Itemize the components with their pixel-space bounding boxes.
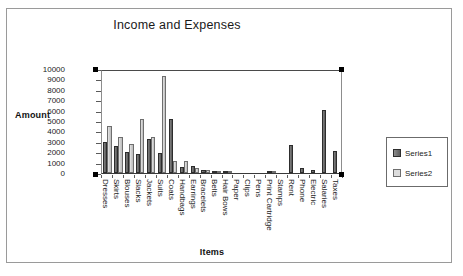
- x-axis-category-labels: DressesSkirtsBlousesSlacksJacketsSuitsCo…: [101, 179, 342, 245]
- bar-series1[interactable]: [212, 171, 216, 173]
- bar-group[interactable]: [212, 71, 223, 173]
- chart-object-frame[interactable]: Income and Expenses Amount 1000090008000…: [6, 8, 452, 263]
- bar-group[interactable]: [244, 71, 255, 173]
- bar-group[interactable]: [168, 71, 179, 173]
- bar-series2[interactable]: [107, 126, 111, 173]
- chart-title: Income and Expenses: [7, 18, 347, 32]
- bar-series1[interactable]: [322, 110, 326, 173]
- bar-series2[interactable]: [151, 137, 155, 173]
- x-category-label: Blouses: [123, 179, 131, 207]
- selection-handle[interactable]: [93, 67, 98, 72]
- x-tick-mark: [298, 175, 299, 178]
- bar-group[interactable]: [102, 71, 113, 173]
- bar-series1[interactable]: [201, 170, 205, 173]
- bar-group[interactable]: [201, 71, 212, 173]
- legend-swatch-icon: [393, 169, 401, 177]
- x-tick-mark: [287, 175, 288, 178]
- x-tick-mark: [331, 175, 332, 178]
- bar-series2[interactable]: [206, 170, 210, 173]
- x-category-label: Handbags: [178, 179, 186, 215]
- bar-group[interactable]: [288, 71, 299, 173]
- bar-series1[interactable]: [289, 145, 293, 173]
- bar-series1[interactable]: [191, 166, 195, 173]
- bar-series1[interactable]: [103, 142, 107, 173]
- bar-series1[interactable]: [158, 153, 162, 173]
- bar-series2[interactable]: [217, 171, 221, 173]
- x-tick-mark: [232, 175, 233, 178]
- selection-handle[interactable]: [93, 172, 98, 177]
- bar-group[interactable]: [321, 71, 332, 173]
- x-tick-mark: [254, 175, 255, 178]
- legend-label: Series2: [405, 169, 432, 178]
- x-tick-mark: [189, 175, 190, 178]
- bar-group[interactable]: [310, 71, 321, 173]
- bar-group[interactable]: [233, 71, 244, 173]
- bar-series2[interactable]: [195, 168, 199, 173]
- plot-inner-region: [101, 70, 342, 174]
- bar-group[interactable]: [135, 71, 146, 173]
- x-category-label: Jackets: [145, 179, 153, 206]
- x-axis-title: Items: [87, 247, 337, 257]
- bar-group[interactable]: [190, 71, 201, 173]
- x-tick-mark: [320, 175, 321, 178]
- x-category-label: Suits: [156, 179, 164, 197]
- bar-series1[interactable]: [147, 139, 151, 173]
- selection-handle[interactable]: [339, 67, 344, 72]
- x-category-label: Pens: [254, 179, 262, 197]
- y-tick-label: 2000: [33, 149, 65, 157]
- bar-series1[interactable]: [300, 168, 304, 173]
- y-tick-label: 7000: [33, 97, 65, 105]
- bar-series1[interactable]: [136, 154, 140, 173]
- x-category-label: Salaries: [320, 179, 328, 208]
- x-tick-mark: [145, 175, 146, 178]
- chart-legend[interactable]: Series1Series2: [386, 137, 448, 187]
- bar-series2[interactable]: [173, 161, 177, 173]
- bar-series2[interactable]: [272, 171, 276, 173]
- legend-item[interactable]: Series2: [393, 167, 432, 179]
- bar-group[interactable]: [146, 71, 157, 173]
- x-tick-mark: [265, 175, 266, 178]
- x-category-label: Taxes: [331, 179, 339, 200]
- bar-series2[interactable]: [129, 144, 133, 173]
- x-category-label: Earrings: [189, 179, 197, 209]
- selection-handle[interactable]: [339, 172, 344, 177]
- bar-group[interactable]: [266, 71, 277, 173]
- bar-series2[interactable]: [184, 161, 188, 173]
- x-tick-mark: [222, 175, 223, 178]
- bar-series2[interactable]: [228, 171, 232, 173]
- x-tick-mark: [243, 175, 244, 178]
- y-tick-label: 0: [33, 170, 65, 178]
- x-tick-mark: [200, 175, 201, 178]
- bar-group[interactable]: [179, 71, 190, 173]
- bar-series1[interactable]: [267, 171, 271, 173]
- bar-series1[interactable]: [311, 170, 315, 173]
- bar-series1[interactable]: [180, 167, 184, 173]
- legend-item[interactable]: Series1: [393, 147, 432, 159]
- y-tick-label: 8000: [33, 87, 65, 95]
- bar-group[interactable]: [332, 71, 343, 173]
- bar-group[interactable]: [124, 71, 135, 173]
- x-category-label: Stamps: [276, 179, 284, 206]
- y-tick-label: 4000: [33, 128, 65, 136]
- bar-series2[interactable]: [140, 119, 144, 173]
- bar-series1[interactable]: [114, 146, 118, 173]
- bar-group[interactable]: [113, 71, 124, 173]
- bar-series1[interactable]: [125, 152, 129, 173]
- x-category-label: Phone: [298, 179, 306, 202]
- bar-group[interactable]: [157, 71, 168, 173]
- x-category-label: Paper: [232, 179, 240, 200]
- bar-group[interactable]: [223, 71, 234, 173]
- bar-series1[interactable]: [169, 119, 173, 173]
- bar-series1[interactable]: [223, 171, 227, 173]
- bar-series1[interactable]: [333, 151, 337, 173]
- bar-series2[interactable]: [162, 76, 166, 173]
- bar-group[interactable]: [299, 71, 310, 173]
- bar-group[interactable]: [277, 71, 288, 173]
- bar-series2[interactable]: [118, 137, 122, 173]
- x-tick-mark: [167, 175, 168, 178]
- x-category-label: Slacks: [134, 179, 142, 203]
- x-tick-mark: [156, 175, 157, 178]
- x-category-label: Clips: [243, 179, 251, 197]
- bar-group[interactable]: [255, 71, 266, 173]
- plot-area[interactable]: [93, 64, 345, 176]
